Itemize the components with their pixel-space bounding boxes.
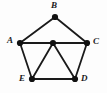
graph-vertex-d	[72, 76, 78, 82]
vertex-label-b: B	[51, 1, 57, 10]
graph-vertex-c	[84, 40, 90, 46]
graph-edge-f-d	[53, 43, 75, 79]
graph-canvas	[0, 0, 107, 93]
vertex-label-d: D	[81, 74, 88, 83]
graph-vertex-center	[50, 40, 56, 46]
graph-edge-b-c	[55, 17, 87, 43]
vertex-label-a: A	[7, 36, 13, 45]
graph-edge-a-b	[20, 17, 55, 43]
graph-vertex-e	[29, 76, 35, 82]
graph-edge-e-f	[32, 43, 53, 79]
graph-vertex-b	[52, 14, 58, 20]
graph-vertex-a	[17, 40, 23, 46]
vertex-label-c: C	[93, 37, 99, 46]
edge-layer	[20, 17, 87, 79]
vertex-label-e: E	[19, 74, 25, 83]
graph-diagram: ABCDE	[0, 0, 107, 93]
vertex-layer	[17, 14, 90, 82]
